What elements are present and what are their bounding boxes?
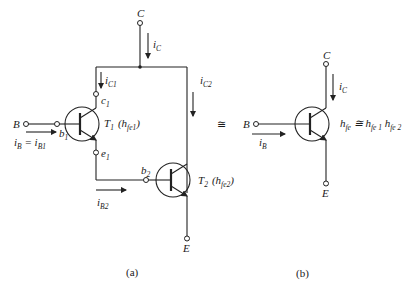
- ib-label: iB = iB1: [14, 136, 46, 151]
- terminal-b: [24, 122, 29, 127]
- terminal-c: [138, 21, 143, 26]
- b-terminal-b-label: B: [243, 118, 250, 130]
- b-terminal-c-label: C: [323, 49, 331, 61]
- hfe-formula: hfe ≅ hfe 1 hfe 2: [340, 117, 402, 132]
- terminal-b-label: B: [13, 118, 20, 130]
- ic1-label: iC1: [105, 74, 117, 89]
- node-e1: [94, 150, 99, 155]
- darlington-diagram: C iC iC1 c1 iC2 T1(hfe1) B: [0, 0, 416, 294]
- ic-label: iC: [153, 38, 162, 53]
- equivalence-symbol: ≅: [217, 118, 226, 130]
- caption-a: (a): [126, 266, 139, 279]
- b2-label: b2: [141, 164, 151, 179]
- terminal-e: [185, 236, 190, 241]
- terminal-c-label: C: [137, 7, 145, 19]
- figure-b: C iC hfe ≅ hfe 1 hfe 2 B iB E (b): [243, 49, 402, 280]
- t1-label: T1(hfe1): [104, 117, 140, 132]
- ic2-label: iC2: [200, 74, 212, 89]
- b-ib-label: iB: [259, 136, 267, 151]
- b-terminal-c: [324, 62, 329, 67]
- figure-a: C iC iC1 c1 iC2 T1(hfe1) B: [13, 7, 234, 279]
- b1-label: b1: [59, 127, 68, 142]
- b-ic-label: iC: [339, 80, 348, 95]
- b-terminal-e-label: E: [321, 187, 329, 199]
- b-terminal-b: [254, 122, 259, 127]
- node-b1: [55, 122, 60, 127]
- t2-label: T2(hfe2): [198, 174, 234, 189]
- e1-label: e1: [101, 147, 110, 162]
- ib2-label: iB2: [97, 196, 109, 211]
- b-terminal-e: [324, 181, 329, 186]
- terminal-e-label: E: [182, 242, 190, 254]
- c1-label: c1: [101, 94, 110, 109]
- node-c1: [94, 92, 99, 97]
- caption-b: (b): [296, 267, 309, 280]
